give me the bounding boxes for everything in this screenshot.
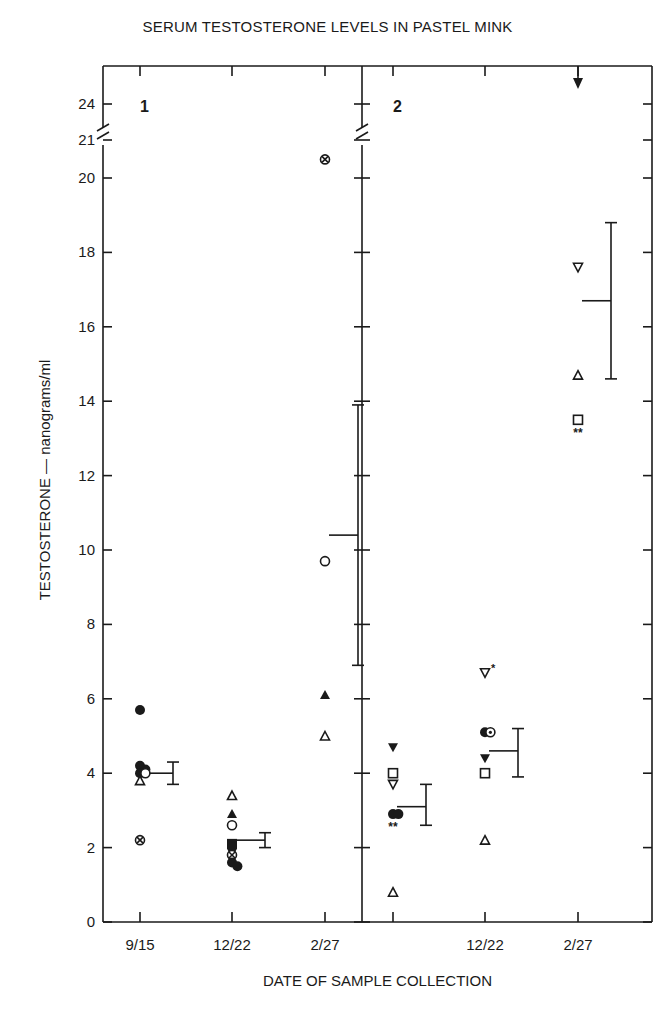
filled-circle-marker <box>135 705 145 715</box>
data-group <box>227 791 271 871</box>
open-circle-marker <box>228 821 237 830</box>
filled-circle-marker <box>232 861 242 871</box>
filled-inverted-triangle-marker <box>388 743 398 752</box>
open-square-marker <box>574 415 583 424</box>
open-inverted-triangle-marker <box>389 780 398 789</box>
filled-inverted-triangle-marker <box>480 754 490 763</box>
plot-area: 02468101214161820212419/1512/222/27212/2… <box>0 0 655 1018</box>
open-circle-marker <box>141 769 150 778</box>
y-tick-label: 0 <box>87 913 95 930</box>
y-tick-label: 4 <box>87 764 95 781</box>
data-group <box>135 705 179 845</box>
y-tick-label: 20 <box>78 169 95 186</box>
open-triangle-marker <box>481 836 490 845</box>
open-circle-marker <box>321 557 330 566</box>
y-tick-label: 10 <box>78 541 95 558</box>
y-tick-label: 16 <box>78 318 95 335</box>
y-tick-label: 8 <box>87 615 95 632</box>
x-tick-label: 12/22 <box>466 936 504 953</box>
open-triangle-marker <box>321 732 330 741</box>
x-tick-label: 9/15 <box>125 936 154 953</box>
open-square-marker <box>481 769 490 778</box>
open-inverted-triangle-marker <box>574 263 583 272</box>
filled-triangle-marker <box>320 690 330 699</box>
arrow-icon <box>573 78 583 89</box>
annotation-asterisk: * <box>491 662 496 674</box>
circle-dot-marker <box>489 731 492 734</box>
y-tick-label: 14 <box>78 392 95 409</box>
y-tick-label: 12 <box>78 467 95 484</box>
panel-label: 2 <box>393 98 402 115</box>
open-triangle-marker <box>228 791 237 800</box>
open-square-marker <box>389 769 398 778</box>
open-triangle-marker <box>574 371 583 380</box>
y-tick-label: 18 <box>78 243 95 260</box>
y-tick-label: 6 <box>87 690 95 707</box>
data-group: ** <box>573 66 617 440</box>
open-inverted-triangle-marker <box>481 669 490 678</box>
y-tick-label: 21 <box>78 131 95 148</box>
x-tick-label: 2/27 <box>310 936 339 953</box>
filled-circle-marker <box>393 809 403 819</box>
annotation-double-asterisk: ** <box>388 820 398 834</box>
filled-triangle-marker <box>227 809 237 818</box>
y-tick-label: 24 <box>78 95 95 112</box>
data-group <box>320 155 364 740</box>
axis-break-mark <box>356 132 368 139</box>
panel-label: 1 <box>140 98 149 115</box>
x-tick-label: 12/22 <box>213 936 251 953</box>
annotation-double-asterisk: ** <box>573 426 583 440</box>
open-triangle-marker <box>389 888 398 897</box>
y-tick-label: 2 <box>87 839 95 856</box>
x-tick-label: 2/27 <box>563 936 592 953</box>
data-group: * <box>480 662 524 844</box>
axis-break-mark <box>97 132 109 139</box>
data-group: ** <box>388 743 432 896</box>
